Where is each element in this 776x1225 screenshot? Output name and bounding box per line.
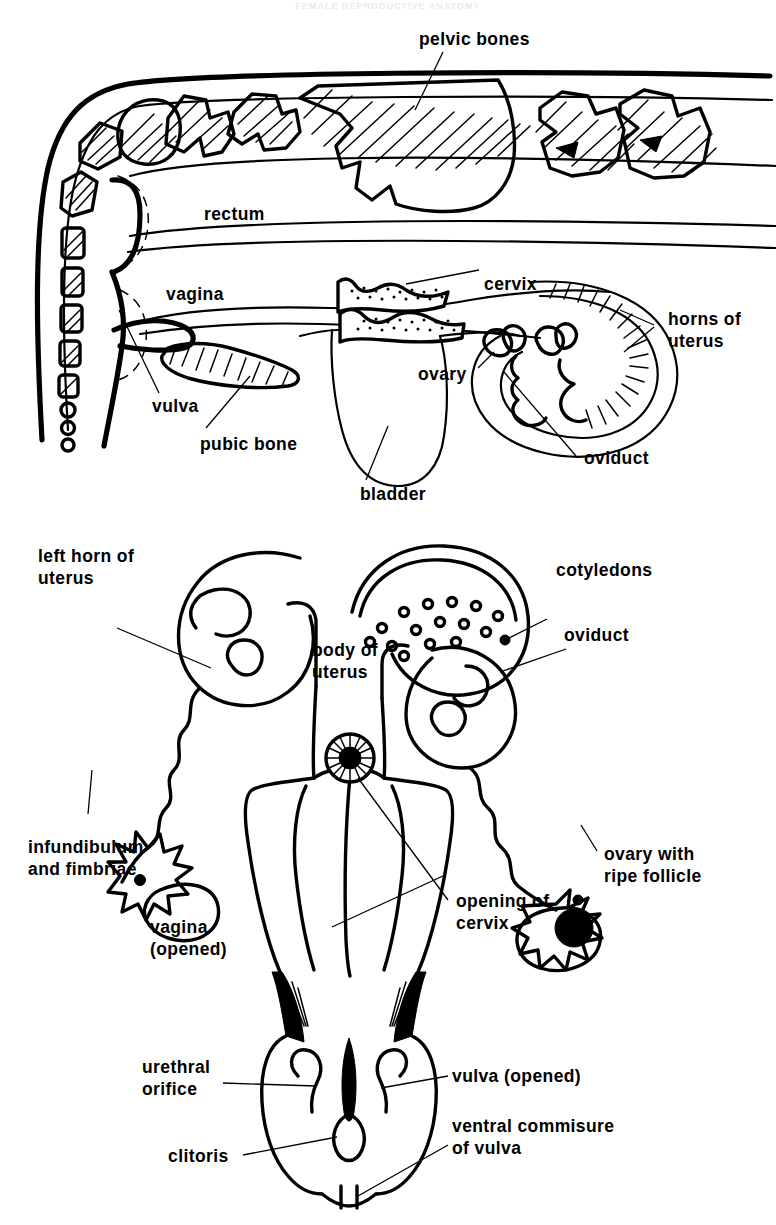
label-left-horn-line2: uterus xyxy=(38,568,94,588)
perineum-vulva-contour xyxy=(104,272,124,446)
right-horn-inner-coil xyxy=(454,666,488,706)
right-horn-lobe xyxy=(432,702,466,736)
vagina-left-inner-fold xyxy=(294,786,314,970)
vagina-right-inner-fold xyxy=(384,786,404,970)
vestibular-hatching xyxy=(272,972,426,1042)
label-vagina-line2: (opened) xyxy=(150,939,227,959)
leader-bladder xyxy=(366,426,388,480)
peritoneal-line-upper xyxy=(128,241,776,252)
pelvic-bone-blocks xyxy=(80,80,716,211)
leader-clitoris xyxy=(243,1137,337,1155)
left-horn-inner-coil xyxy=(191,589,250,636)
anus-rectum-junction xyxy=(112,180,140,272)
label-infundibulum-line2: and fimbriae xyxy=(28,859,137,879)
label-ovary: ovary xyxy=(418,364,467,384)
leader-vagina-opened xyxy=(332,876,443,927)
label-vulva-opened: vulva (opened) xyxy=(452,1066,581,1086)
uterine-horn-outer xyxy=(472,282,677,457)
label-opening-cervix-line2: cervix xyxy=(456,913,509,933)
figure-sagittal-pelvis: pelvic bones rectum cervix vagina horns … xyxy=(0,0,776,520)
ovary-oviduct-assembly xyxy=(484,324,586,426)
leader-cervix xyxy=(406,270,479,284)
cervix-stippled-blocks xyxy=(338,279,464,342)
label-body-of-uterus-line2: uterus xyxy=(312,662,368,682)
label-horns-of-uterus-line1: horns of xyxy=(668,309,741,329)
vagina-right-outer-wall xyxy=(384,778,453,972)
label-clitoris: clitoris xyxy=(168,1146,229,1166)
leader-vulva-opened xyxy=(381,1076,448,1088)
vestibule-right-fold xyxy=(377,1050,406,1112)
sacrum-dorsal-contour xyxy=(37,73,770,440)
label-pelvic-bones: pelvic bones xyxy=(419,29,530,49)
right-horn-band-inner xyxy=(360,560,516,620)
figure-page: FEMALE REPRODUCTIVE ANATOMY xyxy=(0,0,776,1225)
rectum-dorsal-wall xyxy=(130,158,776,176)
figure-opened-tract: left horn of uterus cotyledons body of u… xyxy=(0,520,776,1225)
label-oviduct: oviduct xyxy=(584,448,649,468)
label-urethral-line2: orifice xyxy=(142,1079,197,1099)
vagina-left-outer-wall xyxy=(245,778,314,972)
sagittal-pelvis-drawing: pelvic bones rectum cervix vagina horns … xyxy=(0,0,776,520)
label-infundibulum-line1: infundibulum xyxy=(28,837,144,857)
left-horn-lobe xyxy=(228,640,262,675)
label-vagina: vagina xyxy=(166,284,224,304)
urethral-orifice-slit xyxy=(342,1038,356,1121)
vestibule-left-fold xyxy=(292,1050,321,1112)
ventral-commisure xyxy=(322,1194,376,1206)
bladder-outline xyxy=(331,330,446,486)
label-rectum: rectum xyxy=(204,204,265,224)
label-left-horn-line1: left horn of xyxy=(38,546,134,566)
label-ovary-line1: ovary with xyxy=(604,844,695,864)
uterine-body-right-wall xyxy=(382,698,385,778)
label-oviduct-right: oviduct xyxy=(564,625,629,645)
vagina-median-line xyxy=(345,776,350,976)
label-horns-of-uterus-line2: uterus xyxy=(668,331,724,351)
cervix-rosette xyxy=(326,734,374,782)
label-opening-cervix-line1: opening of xyxy=(456,891,549,911)
label-body-of-uterus-line1: body of xyxy=(312,640,378,660)
right-oviduct xyxy=(470,768,556,910)
label-bladder: bladder xyxy=(360,484,426,504)
label-vulva: vulva xyxy=(152,396,199,416)
uterine-body-left-wall xyxy=(313,686,316,778)
leader-left-horn xyxy=(117,628,211,668)
leader-infundibulum xyxy=(88,770,92,814)
label-ovary-line2: ripe follicle xyxy=(604,866,702,886)
label-pubic-bone: pubic bone xyxy=(200,434,297,454)
leader-ventral-commisure xyxy=(358,1145,448,1196)
opened-tract-drawing: left horn of uterus cotyledons body of u… xyxy=(0,520,776,1225)
label-cotyledons: cotyledons xyxy=(556,560,652,580)
label-cervix: cervix xyxy=(484,274,537,294)
leader-oviduct-right xyxy=(500,649,566,672)
leader-urethral-orifice xyxy=(223,1083,316,1086)
leader-ovary-ripe-follicle xyxy=(581,825,597,851)
label-ventral-line1: ventral commisure xyxy=(452,1116,614,1136)
label-urethral-line1: urethral xyxy=(142,1057,210,1077)
label-ventral-line2: of vulva xyxy=(452,1138,521,1158)
label-vagina-line1: vagina xyxy=(150,917,208,937)
ripe-follicle xyxy=(555,909,593,947)
